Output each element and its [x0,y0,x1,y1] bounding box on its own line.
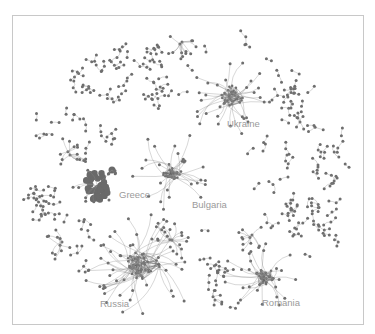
small-component [200,229,209,232]
subcluster-greece-upper [59,137,87,165]
node [234,307,237,310]
node [206,263,209,266]
node [162,208,165,211]
node [246,152,249,155]
node [313,124,316,127]
small-component [81,88,88,94]
small-component [82,117,87,132]
node [117,85,120,88]
node [85,259,88,262]
node [297,221,300,224]
edge [238,282,263,303]
node [151,98,154,101]
node [113,230,116,233]
edge [262,244,266,273]
node [49,194,52,197]
small-component [47,211,61,220]
small-component [69,245,83,257]
subcluster-left-tree [46,228,72,260]
node [208,274,211,277]
node [253,91,256,94]
node [333,238,336,241]
node [52,196,55,199]
node [196,110,199,113]
small-component [306,85,316,94]
node [92,89,95,92]
small-component [35,112,38,122]
node [242,243,245,246]
node [272,191,275,194]
node [90,60,93,63]
node [153,61,156,64]
node [81,91,84,94]
small-component [50,121,61,124]
label-russia: Russia [100,298,130,309]
node [335,208,338,211]
node [259,96,262,99]
node [334,216,337,219]
edge [169,44,180,54]
subcluster-russia-upper [150,222,189,260]
node [288,153,291,156]
node [308,197,311,200]
node [114,169,117,172]
node [296,205,299,208]
node [324,172,327,175]
node [296,116,299,119]
small-component [99,124,102,133]
node [311,212,314,215]
node [292,192,295,195]
node [323,157,326,160]
node [195,45,198,48]
node [190,183,193,186]
node [336,151,339,154]
node [289,100,292,103]
node [119,50,122,53]
small-component [239,29,247,45]
edge [55,245,60,259]
small-component [323,177,339,191]
node [243,43,246,46]
node [252,147,255,150]
small-component [33,192,38,201]
node [311,210,314,213]
small-component [312,170,320,180]
small-component [344,163,351,169]
small-component [133,59,149,69]
node [112,268,115,271]
node [294,278,297,281]
node [226,259,229,262]
node [288,230,291,233]
node [204,94,207,97]
node [58,212,61,215]
node [301,99,304,102]
node [291,234,294,237]
node [160,63,163,66]
node [54,228,57,231]
node [203,44,206,47]
small-component [262,143,267,153]
node [317,177,320,180]
node [185,240,188,243]
node [311,197,314,200]
node [47,235,50,238]
node [157,46,160,49]
node [145,47,148,50]
node [306,124,309,127]
node [47,185,50,188]
node [84,200,87,203]
node [329,184,332,187]
node [286,166,289,169]
node [322,128,325,131]
node [281,212,284,215]
node [77,186,80,189]
node [245,86,248,89]
node [187,236,190,239]
node [151,93,154,96]
small-component [275,69,283,84]
node [264,242,267,245]
node [114,128,117,131]
node [335,245,338,248]
small-component [110,137,115,145]
node [109,235,112,238]
